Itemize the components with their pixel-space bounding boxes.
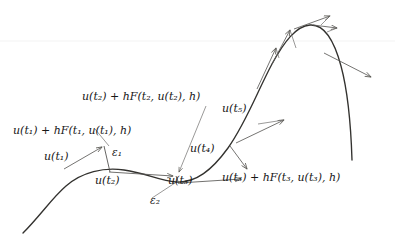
tangent-arrow-t4 <box>230 146 247 169</box>
label-u-t2: u(t₂) <box>95 175 120 186</box>
epsilon-1-bar <box>104 146 110 172</box>
label-u-t1: u(t₁) <box>44 151 69 162</box>
leader-line-peak-d <box>327 28 337 32</box>
tangent-arrow-t8 <box>294 16 330 29</box>
label-u-t5-text: u(t₅) <box>222 102 247 115</box>
label-u-t3-text: u(t₃) <box>168 174 193 187</box>
tangent-arrow-t7 <box>272 30 290 64</box>
diagram-figure: u(t₁) + hF(t₁, u(t₁), h) u(t₂) + hF(t₂, … <box>0 0 395 246</box>
label-u-t3: u(t₃) <box>168 175 193 186</box>
label-euler-step-1: u(t₁) + hF(t₁, u(t₁), h) <box>13 125 131 136</box>
label-u-t2-text: u(t₂) <box>95 174 120 187</box>
tangent-arrow-t1 <box>64 147 102 169</box>
label-epsilon-1: ε₁ <box>112 147 122 158</box>
label-u-t5: u(t₅) <box>222 103 247 114</box>
label-epsilon-1-text: ε₁ <box>112 146 122 158</box>
label-euler-step-2-text: u(t₂) + hF(t₂, u(t₂), h) <box>82 90 200 103</box>
label-u-t4-text: u(t₄) <box>190 142 215 155</box>
label-epsilon-2-text: ε₂ <box>150 194 160 206</box>
label-euler-step-3: u(t₃) + hF(t₃, u(t₃), h) <box>222 172 340 183</box>
tangent-arrow-t10 <box>324 53 371 77</box>
tangent-arrow-t6 <box>257 48 276 89</box>
label-u-t4: u(t₄) <box>190 143 215 154</box>
label-euler-step-3-text: u(t₃) + hF(t₃, u(t₃), h) <box>222 171 340 184</box>
diagram-canvas <box>0 0 395 246</box>
label-euler-step-2: u(t₂) + hF(t₂, u(t₂), h) <box>82 91 200 102</box>
label-u-t1-text: u(t₁) <box>44 150 69 163</box>
leader-line-euler-step-2 <box>179 106 206 172</box>
label-epsilon-2: ε₂ <box>150 195 160 206</box>
label-euler-step-1-text: u(t₁) + hF(t₁, u(t₁), h) <box>13 124 131 137</box>
